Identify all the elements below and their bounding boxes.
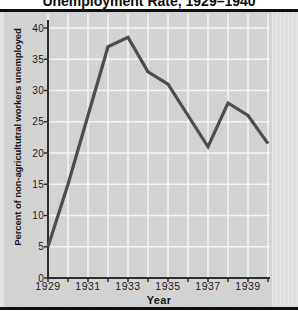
x-tick-label: 1939 (228, 281, 268, 292)
x-tick-label: 1929 (28, 281, 68, 292)
x-tick-label: 1931 (68, 281, 108, 292)
x-tick-label: 1933 (108, 281, 148, 292)
bottom-divider (0, 307, 298, 310)
y-axis-title: Percent of non-agricultutral workers une… (11, 17, 25, 257)
x-tick-label: 1937 (188, 281, 228, 292)
chart-canvas (0, 0, 298, 311)
gridlines (48, 14, 270, 278)
figure: Unemployment Rate, 1929–1940 05101520253… (0, 0, 298, 311)
x-tick-label: 1935 (148, 281, 188, 292)
x-axis-title: Year (48, 294, 270, 306)
